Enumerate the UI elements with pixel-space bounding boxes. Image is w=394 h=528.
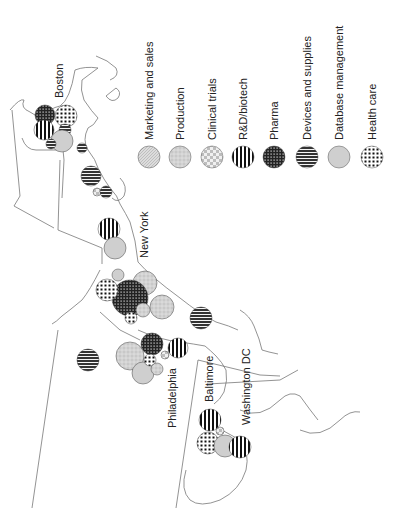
legend-swatch-health <box>361 146 383 168</box>
legend-swatch-devices <box>296 146 318 168</box>
bubble-devices <box>81 166 101 186</box>
bubble-health <box>96 279 118 301</box>
bubble-pharma <box>141 333 163 355</box>
bubble-production <box>150 295 174 319</box>
bubble-database <box>112 269 124 281</box>
bubble-database <box>104 237 126 259</box>
city-label-boston: Boston <box>53 64 65 98</box>
bubble-devices <box>77 349 99 371</box>
city-label-baltimore: Baltimore <box>203 356 215 402</box>
legend-label-pharma: Pharma <box>268 101 280 140</box>
bubble-production <box>136 303 150 317</box>
city-label-new-york: New York <box>138 212 150 258</box>
legend-label-rnd: R&D/biotech <box>237 78 249 140</box>
bubble-clinical <box>216 427 224 435</box>
bubble-devices <box>77 143 87 153</box>
legend-label-devices: Devices and supplies <box>301 36 313 140</box>
bubble-rnd <box>34 120 54 140</box>
legend-swatch-clinical <box>201 146 223 168</box>
legend-swatch-rnd <box>232 146 254 168</box>
bubble-rnd <box>229 436 251 458</box>
legend-label-health: Health care <box>366 84 378 140</box>
cluster-new-york <box>96 218 212 329</box>
bubble-devices <box>100 186 112 198</box>
cluster-boston <box>34 105 112 198</box>
legend-label-clinical: Clinical trials <box>206 78 218 140</box>
bubble-production <box>151 363 163 375</box>
legend-swatch-production <box>169 146 191 168</box>
bubble-devices <box>190 307 212 329</box>
bubble-health <box>55 105 77 127</box>
legend-label-marketing: Marketing and sales <box>143 42 155 140</box>
bubble-health <box>125 312 137 324</box>
legend-swatches <box>138 146 383 168</box>
legend-label-database: Database management <box>333 26 345 140</box>
legend-label-production: Production <box>174 87 186 140</box>
bubble-rnd <box>168 338 188 358</box>
city-label-washington: Washington DC <box>240 348 252 425</box>
bubble-rnd <box>98 218 120 240</box>
city-label-philadelphia: Philadelphia <box>166 368 178 428</box>
legend-swatch-pharma <box>263 146 285 168</box>
legend-swatch-marketing <box>138 146 160 168</box>
legend-swatch-database <box>328 146 350 168</box>
bubble-clinical <box>161 351 169 359</box>
bubble-devices <box>46 139 56 149</box>
